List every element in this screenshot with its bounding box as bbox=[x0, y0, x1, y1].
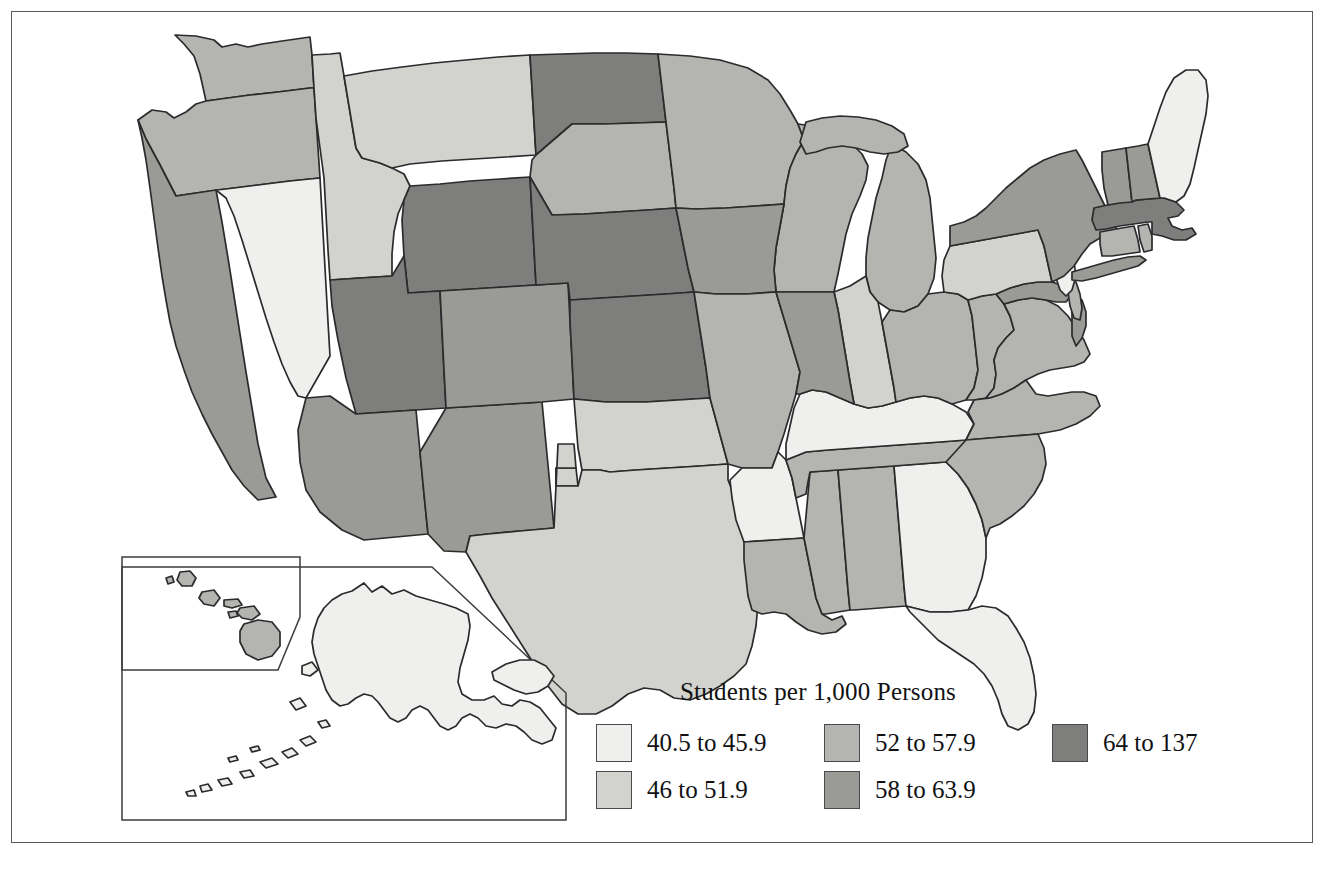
legend-swatch-4 bbox=[824, 771, 860, 809]
state-MI bbox=[866, 144, 936, 312]
state-ME bbox=[1148, 70, 1208, 202]
legend-label-3: 52 to 57.9 bbox=[875, 730, 976, 755]
legend-label-1: 40.5 to 45.9 bbox=[647, 730, 766, 755]
legend-entry-1: 40.5 to 45.9 bbox=[596, 724, 824, 762]
legend-entry-2: 46 to 51.9 bbox=[596, 771, 824, 809]
figure-root: Students per 1,000 Persons 40.5 to 45.9 … bbox=[0, 0, 1326, 872]
alaska-panhandle bbox=[492, 660, 554, 694]
state-HI bbox=[166, 576, 174, 584]
legend-entry-4: 58 to 63.9 bbox=[824, 771, 1052, 809]
state-AZ bbox=[298, 396, 428, 540]
inset-hawaii bbox=[166, 571, 280, 660]
state-MI-upper bbox=[800, 116, 908, 154]
legend-label-2: 46 to 51.9 bbox=[647, 777, 748, 802]
state-MN bbox=[658, 54, 804, 209]
legend-title: Students per 1,000 Persons bbox=[596, 678, 1216, 706]
legend-entries: 40.5 to 45.9 52 to 57.9 64 to 137 46 to … bbox=[596, 719, 1216, 813]
legend-entry-3: 52 to 57.9 bbox=[824, 724, 1052, 762]
legend-swatch-5 bbox=[1052, 724, 1088, 762]
legend-swatch-1 bbox=[596, 724, 632, 762]
aleutian-islands bbox=[186, 720, 330, 796]
state-MT bbox=[344, 55, 536, 168]
state-HI-lanai bbox=[228, 611, 238, 618]
legend-label-4: 58 to 63.9 bbox=[875, 777, 976, 802]
alaska-islands bbox=[290, 662, 318, 710]
state-KS bbox=[570, 292, 710, 402]
state-WY bbox=[402, 177, 536, 293]
legend-label-5: 64 to 137 bbox=[1103, 730, 1197, 755]
legend-swatch-3 bbox=[824, 724, 860, 762]
state-HI-molokai bbox=[224, 599, 242, 608]
state-CO bbox=[440, 283, 574, 408]
state-HI-maui bbox=[237, 606, 260, 620]
legend-swatch-2 bbox=[596, 771, 632, 809]
legend-entry-5: 64 to 137 bbox=[1052, 724, 1216, 762]
map-legend: Students per 1,000 Persons 40.5 to 45.9 … bbox=[596, 678, 1216, 813]
state-HI-oahu bbox=[199, 590, 220, 606]
state-shapes bbox=[138, 35, 1208, 730]
state-HI-bigisland bbox=[240, 620, 280, 660]
state-NY-long-island bbox=[1072, 256, 1146, 281]
state-IA bbox=[676, 204, 784, 294]
state-CT bbox=[1100, 226, 1140, 256]
state-HI-kauai bbox=[177, 571, 196, 586]
